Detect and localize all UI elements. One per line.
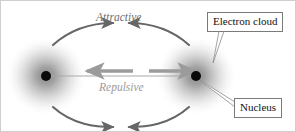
attractive-label: Attractive bbox=[96, 11, 141, 23]
electron-cloud-callout: Electron cloud bbox=[207, 12, 283, 32]
figure-canvas: Attractive Repulsive Electron cloud Nucl… bbox=[0, 0, 296, 132]
nucleus-right bbox=[191, 71, 201, 81]
nucleus-callout: Nucleus bbox=[234, 98, 282, 118]
repulsive-label: Repulsive bbox=[99, 81, 144, 93]
nucleus-left bbox=[41, 71, 51, 81]
